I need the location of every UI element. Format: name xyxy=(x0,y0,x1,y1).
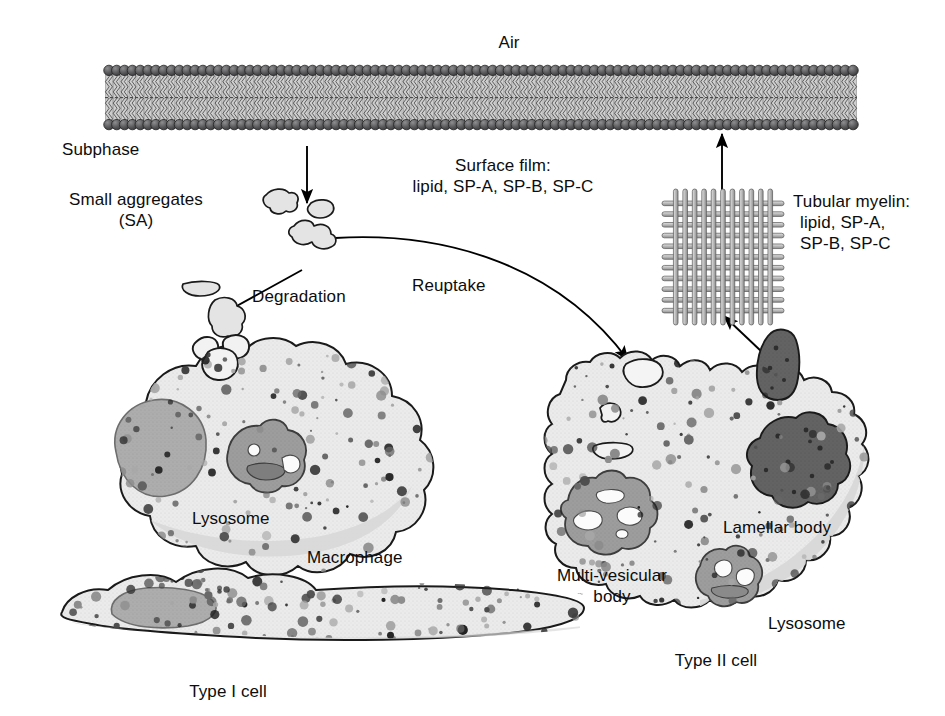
diagram-vector-layer xyxy=(0,0,945,716)
type-i-cell xyxy=(60,563,590,650)
label-tubular-myelin-line3: SP-B, SP-C xyxy=(800,233,891,254)
label-subphase: Subphase xyxy=(62,139,139,160)
label-surface-film-line1: Surface film: xyxy=(455,155,551,176)
degradation-fragments xyxy=(182,281,245,336)
arrow-reuptake-curve xyxy=(335,237,628,360)
label-multivesicular-body-line2: body xyxy=(593,586,630,607)
degradation-fragment-flat xyxy=(182,281,219,296)
label-small-aggregates-line2: (SA) xyxy=(119,210,153,231)
type-ii-endocytic-pit xyxy=(624,359,663,387)
label-surface-film-line2: lipid, SP-A, SP-B, SP-C xyxy=(413,176,594,197)
label-tubular-myelin-line2: lipid, SP-A, xyxy=(800,212,885,233)
aggregate-blob-3 xyxy=(289,220,336,248)
label-lysosome-macrophage: Lysosome xyxy=(192,508,270,529)
lipid-bilayer xyxy=(104,65,859,130)
label-degradation: Degradation xyxy=(252,286,346,307)
label-macrophage: Macrophage xyxy=(307,547,403,568)
secreted-lamellar-body xyxy=(757,330,799,400)
tubular-myelin-lattice xyxy=(662,189,784,325)
label-lamellar-body: Lamellar body xyxy=(723,517,831,538)
label-multivesicular-body-line1: Multi-vesicular xyxy=(557,565,667,586)
label-type-i-cell: Type I cell xyxy=(189,681,267,702)
aggregate-blob-2 xyxy=(308,200,334,218)
label-small-aggregates-line1: Small aggregates xyxy=(69,189,203,210)
small-aggregate-blobs xyxy=(263,189,336,249)
label-type-ii-cell: Type II cell xyxy=(675,650,757,671)
label-tubular-myelin-line1: Tubular myelin: xyxy=(793,191,910,212)
label-air: Air xyxy=(498,32,519,53)
label-lysosome-typeii: Lysosome xyxy=(768,613,846,634)
figure-canvas: Air Subphase Small aggregates (SA) Surfa… xyxy=(0,0,945,716)
label-reuptake: Reuptake xyxy=(412,275,486,296)
aggregate-blob-1 xyxy=(263,189,298,214)
